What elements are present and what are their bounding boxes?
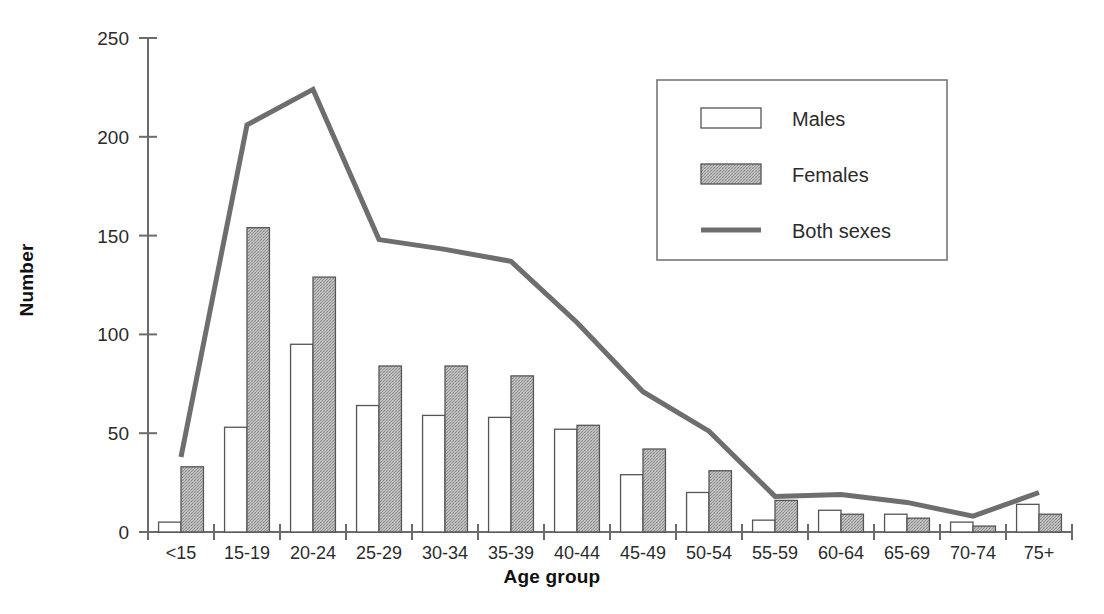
bar-females <box>445 366 467 532</box>
bar-males <box>687 492 709 532</box>
y-tick-label: 50 <box>108 423 129 444</box>
bar-females <box>379 366 401 532</box>
bar-males <box>423 415 445 532</box>
bar-females <box>313 277 335 532</box>
bar-males <box>1017 504 1039 532</box>
bar-males <box>885 514 907 532</box>
x-tick-label: 40-44 <box>554 543 600 563</box>
x-tick-label: 60-64 <box>818 543 864 563</box>
chart-container: Number 050100150200250 <1515-1920-2425-2… <box>0 0 1104 614</box>
x-tick-label: 70-74 <box>950 543 996 563</box>
legend-item-label: Males <box>792 108 845 130</box>
x-tick-label: 25-29 <box>356 543 402 563</box>
x-tick-label: 50-54 <box>686 543 732 563</box>
bar-males <box>951 522 973 532</box>
legend-item-label: Both sexes <box>792 220 891 242</box>
x-axis-title-label: Age group <box>504 566 601 587</box>
x-tick-label: 55-59 <box>752 543 798 563</box>
y-tick-label: 250 <box>97 28 129 49</box>
x-tick-label: 65-69 <box>884 543 930 563</box>
y-tick-label: 0 <box>118 522 129 543</box>
bar-males <box>819 510 841 532</box>
bar-males <box>357 406 379 532</box>
bar-females <box>247 228 269 532</box>
bar-females <box>973 526 995 532</box>
y-tick-label: 150 <box>97 226 129 247</box>
bar-males <box>753 520 775 532</box>
legend-swatch-females <box>701 164 761 184</box>
x-tick-label: 75+ <box>1024 543 1055 563</box>
legend-swatch-males <box>701 108 761 128</box>
bar-females <box>1039 514 1061 532</box>
bar-males <box>489 417 511 532</box>
x-tick-label: 30-34 <box>422 543 468 563</box>
x-tick-label: 35-39 <box>488 543 534 563</box>
y-tick-label: 200 <box>97 127 129 148</box>
bar-males <box>291 344 313 532</box>
chart-legend: MalesFemalesBoth sexes <box>657 80 947 260</box>
bar-males <box>159 522 181 532</box>
x-axis-tick-labels: <1515-1920-2425-2930-3435-3940-4445-4950… <box>166 543 1055 563</box>
x-tick-label: 15-19 <box>224 543 270 563</box>
bar-females <box>511 376 533 532</box>
bar-males <box>621 475 643 532</box>
x-tick-label: <15 <box>166 543 197 563</box>
bar-females <box>643 449 665 532</box>
bar-females <box>181 467 203 532</box>
bar-females <box>709 471 731 532</box>
legend-item-label: Females <box>792 164 869 186</box>
bar-females <box>775 500 797 532</box>
bar-females <box>907 518 929 532</box>
bar-females <box>577 425 599 532</box>
chart-plot-area: 050100150200250 <1515-1920-2425-2930-343… <box>0 0 1104 614</box>
y-tick-label: 100 <box>97 324 129 345</box>
bar-males <box>555 429 577 532</box>
x-tick-label: 45-49 <box>620 543 666 563</box>
x-axis-title: Age group <box>0 566 1104 588</box>
x-tick-label: 20-24 <box>290 543 336 563</box>
bar-males <box>225 427 247 532</box>
bar-females <box>841 514 863 532</box>
